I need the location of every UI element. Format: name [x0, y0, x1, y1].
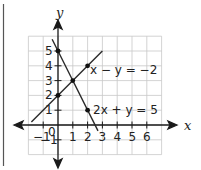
- point-0-2: [56, 93, 61, 98]
- y-tick-label: 4: [45, 59, 53, 73]
- y-tick-label: −1: [40, 133, 58, 147]
- x-tick-label: 5: [129, 130, 137, 144]
- equation-label-1: x − y = −2: [90, 63, 157, 77]
- x-tick-label: 1: [69, 130, 77, 144]
- arrow-up-icon: [54, 20, 62, 29]
- point-2-1: [85, 108, 90, 113]
- x-tick-label: 6: [143, 130, 151, 144]
- y-axis-label: y: [55, 5, 64, 20]
- x-tick-label: 3: [99, 130, 107, 144]
- equation-label-2: 2x + y = 5: [93, 103, 158, 117]
- point-0-5: [56, 49, 61, 54]
- point-intersection-1-3: [70, 78, 75, 83]
- y-tick-label: 3: [45, 74, 53, 88]
- line-x-minus-y-eq-neg2: [31, 51, 102, 122]
- arrow-left-icon: [14, 121, 23, 129]
- arrow-down-icon: [54, 159, 62, 168]
- coordinate-plane: y x −1 0 1 2 3 4 5 6 5 4 3 2 1 −1 x − y …: [0, 0, 201, 170]
- x-tick-label: 4: [114, 130, 122, 144]
- y-tick-label: 2: [45, 88, 53, 102]
- x-tick-label: 2: [84, 130, 92, 144]
- y-tick-label: 5: [45, 44, 53, 58]
- arrow-right-icon: [168, 121, 177, 129]
- x-axis-label: x: [184, 118, 192, 133]
